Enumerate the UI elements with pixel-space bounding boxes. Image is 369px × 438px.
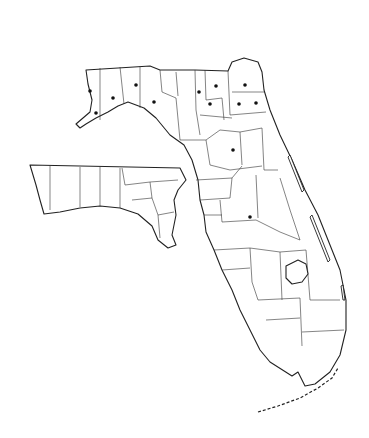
location-marker bbox=[197, 90, 201, 94]
location-marker bbox=[254, 101, 258, 105]
location-marker bbox=[111, 96, 115, 100]
location-marker bbox=[243, 83, 247, 87]
location-marker bbox=[237, 102, 241, 106]
location-marker bbox=[231, 148, 235, 152]
location-marker bbox=[88, 89, 92, 93]
location-marker bbox=[214, 84, 218, 88]
panhandle-inset-outline bbox=[30, 165, 186, 248]
location-marker bbox=[248, 215, 252, 219]
florida-main-outline bbox=[76, 58, 346, 386]
location-marker bbox=[94, 111, 98, 115]
location-marker bbox=[152, 100, 156, 104]
location-marker bbox=[208, 102, 212, 106]
florida-county-map bbox=[0, 0, 369, 438]
location-marker bbox=[134, 83, 138, 87]
